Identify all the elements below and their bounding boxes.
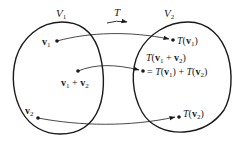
set-v1-boundary [13, 22, 103, 134]
point-tv1 [171, 38, 175, 42]
point-v1 [55, 39, 59, 43]
point-v1-plus-v2 [76, 69, 80, 73]
mapping-arrow-v2 [38, 117, 175, 124]
point-tv1-label: T(v1) [177, 35, 198, 48]
map-t-label: T [114, 6, 121, 18]
map-t-arrow [107, 21, 127, 23]
point-tv1v2 [141, 69, 145, 73]
point-v1-plus-v2-label: v1 + v2 [61, 77, 89, 90]
point-v1-label: v1 [42, 36, 51, 49]
point-tv2 [177, 115, 181, 119]
set-v2-label: V2 [164, 7, 175, 21]
point-tv2-label: T(v2) [183, 108, 204, 121]
point-v2-label: v2 [25, 105, 34, 118]
set-v1-label: V1 [56, 7, 67, 21]
mapping-arrow-v1-plus-v2 [78, 66, 139, 71]
point-tv1v2-label-line2: = T(v1) + T(v2) [147, 66, 207, 79]
point-v2 [36, 116, 40, 120]
linear-map-diagram: V1 V2 T v1 v1 + v2 v2 T(v1) T(v1 + v2) =… [0, 0, 235, 144]
point-tv1v2-label-line1: T(v1 + v2) [146, 52, 186, 65]
